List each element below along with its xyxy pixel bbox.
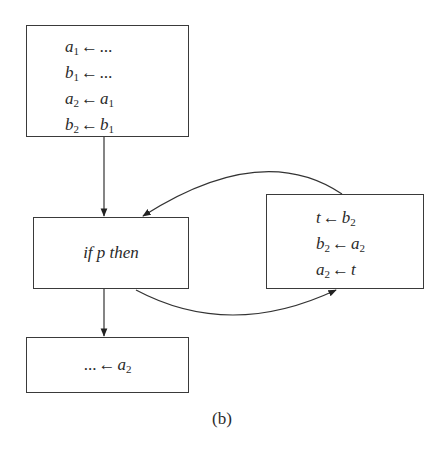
stmt: t←b2 bbox=[316, 207, 356, 233]
left-arrow-icon: ← bbox=[81, 115, 98, 134]
stmt: b2←b1 bbox=[65, 114, 114, 140]
stmt: b2←a2 bbox=[316, 233, 365, 259]
figure-caption: (b) bbox=[0, 409, 444, 429]
left-arrow-icon: ← bbox=[323, 208, 340, 227]
left-arrow-icon: ← bbox=[332, 260, 349, 279]
left-arrow-icon: ← bbox=[332, 234, 349, 253]
node-cond: if p then bbox=[33, 217, 189, 289]
edge-cond-to-swap bbox=[136, 290, 336, 315]
left-arrow-icon: ← bbox=[81, 89, 98, 108]
left-arrow-icon: ← bbox=[81, 63, 98, 82]
stmt: ...←a2 bbox=[27, 354, 188, 380]
node-use: ...←a2 bbox=[26, 337, 189, 393]
stmt: a2←t bbox=[316, 259, 356, 285]
node-swap: t←b2 b2←a2 a2←t bbox=[266, 194, 424, 289]
stmt: a1←... bbox=[65, 36, 113, 62]
left-arrow-icon: ← bbox=[98, 355, 115, 374]
left-arrow-icon: ← bbox=[81, 37, 98, 56]
node-init: a1←... b1←... a2←a1 b2←b1 bbox=[26, 25, 189, 137]
condition-text: if p then bbox=[34, 242, 188, 263]
stmt: b1←... bbox=[65, 62, 113, 88]
stmt: a2←a1 bbox=[65, 88, 114, 114]
